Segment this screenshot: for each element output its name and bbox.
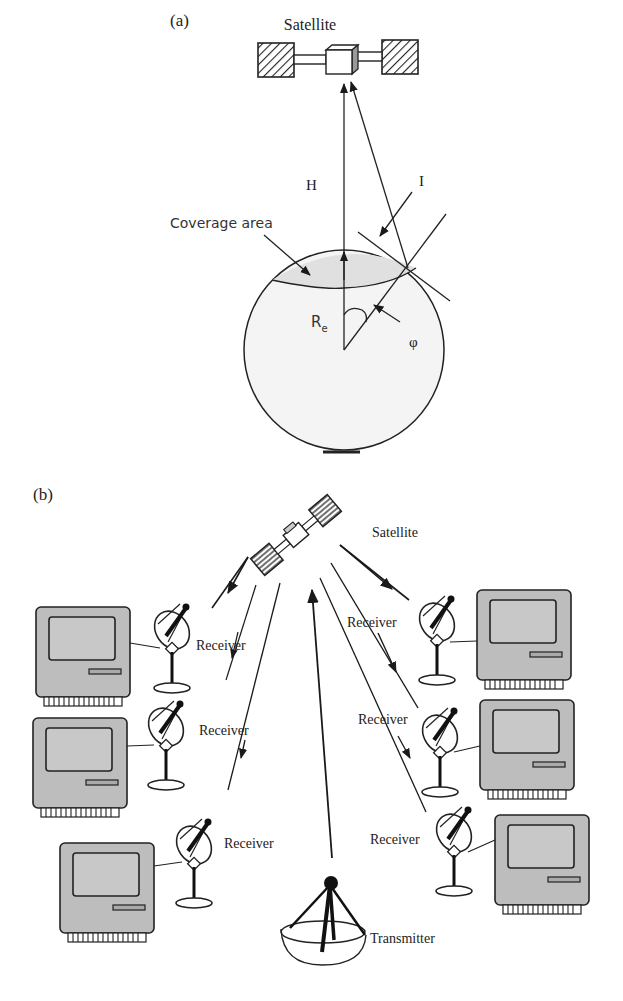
transmitter-label: Transmitter <box>370 931 435 946</box>
slant-range-line <box>351 82 408 268</box>
panel-a-label: (a) <box>170 11 189 30</box>
panel-b-label: (b) <box>33 485 53 504</box>
dish-right-3 <box>429 807 478 897</box>
signal-lines <box>212 545 426 858</box>
computer-left-3 <box>60 843 154 942</box>
phi-label: φ <box>409 334 418 350</box>
satellite-b-label: Satellite <box>372 525 418 540</box>
dish-right-1 <box>412 596 461 686</box>
receiver-label-5: Receiver <box>358 712 408 727</box>
incidence-label: I <box>419 173 424 189</box>
receiver-label-4: Receiver <box>347 615 397 630</box>
receiver-label-3: Receiver <box>224 836 274 851</box>
diagram-canvas: (a) Satellite <box>0 0 623 1001</box>
dish-right-2 <box>415 708 464 798</box>
computer-right-1 <box>477 590 571 689</box>
computer-left-1 <box>36 607 130 706</box>
receiver-label-6: Receiver <box>370 832 420 847</box>
transmitter-icon <box>281 876 366 965</box>
satellite-label: Satellite <box>284 16 336 33</box>
coverage-area-label: Coverage area <box>170 215 273 231</box>
receiver-label-1: Receiver <box>196 638 246 653</box>
satellite-b-icon <box>250 494 341 576</box>
receiver-label-2: Receiver <box>199 723 249 738</box>
computer-right-2 <box>480 700 574 799</box>
panel-b: (b) Satellite <box>33 485 589 965</box>
computer-right-3 <box>495 815 589 914</box>
dish-left-1 <box>147 604 196 694</box>
satellite-icon <box>258 40 418 77</box>
height-label: H <box>306 177 317 193</box>
panel-a: (a) Satellite <box>170 11 450 452</box>
computer-left-2 <box>33 718 127 817</box>
